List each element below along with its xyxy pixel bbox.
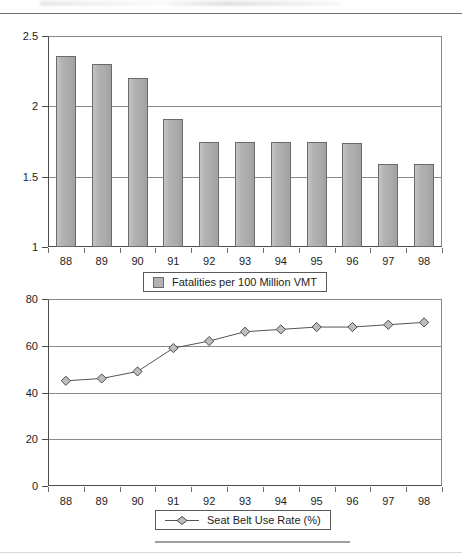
legend-label-fatalities: Fatalities per 100 Million VMT [172, 276, 317, 288]
bar-y-tick-label: 1 [32, 241, 38, 253]
bar-x-tick-mark [406, 248, 407, 253]
line-x-tick-mark [155, 487, 156, 492]
data-point-marker [205, 336, 214, 345]
cropped-header-text [40, 1, 340, 6]
bar-item [56, 56, 76, 247]
line-x-tick-label: 88 [60, 495, 72, 507]
bar-y-tick-label: 2.5 [23, 30, 38, 42]
bar-x-tick-mark [442, 248, 443, 253]
bar-y-tick-mark [42, 106, 48, 107]
line-x-tick-label: 90 [131, 495, 143, 507]
bar-item [378, 164, 398, 247]
bar-x-tick-mark [191, 248, 192, 253]
data-point-marker [61, 376, 70, 385]
bar-item [342, 143, 362, 247]
bar-y-tick-mark [42, 177, 48, 178]
legend-label-seatbelt: Seat Belt Use Rate (%) [207, 514, 321, 526]
data-point-marker [276, 325, 285, 334]
data-point-marker [240, 327, 249, 336]
line-x-tick-mark [335, 487, 336, 492]
line-x-tick-label: 89 [96, 495, 108, 507]
data-point-marker [312, 322, 321, 331]
bar-x-tick-mark [299, 248, 300, 253]
bar-x-tick-mark [227, 248, 228, 253]
bar-x-tick-mark [155, 248, 156, 253]
line-x-tick-mark [227, 487, 228, 492]
line-x-tick-mark [370, 487, 371, 492]
bar-y-tick-mark [42, 36, 48, 37]
bar-x-tick-label: 97 [382, 255, 394, 267]
bar-x-tick-label: 91 [167, 255, 179, 267]
bar-x-tick-mark [120, 248, 121, 253]
bar-x-tick-mark [84, 248, 85, 253]
bar-item [235, 142, 255, 248]
line-x-tick-mark [48, 487, 49, 492]
line-x-tick-mark [120, 487, 121, 492]
bar-item [414, 164, 434, 247]
line-x-tick-label: 98 [418, 495, 430, 507]
bar-item [92, 64, 112, 247]
legend-diamond-icon [177, 516, 187, 524]
bar-x-tick-label: 92 [203, 255, 215, 267]
line-x-tick-mark [406, 487, 407, 492]
line-x-tick-label: 93 [239, 495, 251, 507]
bar-x-tick-mark [263, 248, 264, 253]
bar-y-tick-label: 2 [32, 100, 38, 112]
bar-x-tick-label: 98 [418, 255, 430, 267]
line-x-tick-mark [442, 487, 443, 492]
seatbelt-series [0, 288, 462, 548]
bar-y-tick-label: 1.5 [23, 171, 38, 183]
bar-item [199, 142, 219, 248]
seatbelt-line-chart: 020406080 8889909192939495969798 Seat Be… [0, 288, 462, 548]
bar-x-tick-mark [335, 248, 336, 253]
bar-x-tick-label: 89 [96, 255, 108, 267]
bar-x-tick-label: 96 [346, 255, 358, 267]
bar-x-tick-mark [370, 248, 371, 253]
fatalities-bar-chart: 11.522.5 8889909192939495969798 Fataliti… [0, 25, 462, 275]
line-x-tick-mark [263, 487, 264, 492]
legend-line-icon [165, 515, 199, 526]
header-divider-rule [0, 13, 462, 14]
bar-gridline [49, 36, 441, 37]
footer-divider-faint [0, 552, 462, 553]
bar-item [307, 142, 327, 248]
bar-x-tick-mark [48, 248, 49, 253]
line-x-tick-label: 96 [346, 495, 358, 507]
footer-divider-dark [155, 541, 350, 543]
line-x-tick-label: 95 [311, 495, 323, 507]
bar-x-tick-label: 94 [275, 255, 287, 267]
data-point-marker [133, 367, 142, 376]
bar-x-tick-label: 90 [131, 255, 143, 267]
line-x-tick-label: 92 [203, 495, 215, 507]
bar-x-tick-label: 95 [311, 255, 323, 267]
bar-item [128, 78, 148, 247]
line-x-tick-mark [299, 487, 300, 492]
line-x-tick-label: 94 [275, 495, 287, 507]
bar-x-tick-label: 88 [60, 255, 72, 267]
bar-x-tick-label: 93 [239, 255, 251, 267]
bar-item [163, 119, 183, 247]
line-x-tick-label: 91 [167, 495, 179, 507]
figure-page: 11.522.5 8889909192939495969798 Fataliti… [0, 0, 462, 559]
data-point-marker [348, 322, 357, 331]
data-point-marker [384, 320, 393, 329]
line-x-tick-mark [191, 487, 192, 492]
line-x-tick-mark [84, 487, 85, 492]
line-chart-legend: Seat Belt Use Rate (%) [155, 510, 331, 530]
data-point-marker [97, 374, 106, 383]
data-point-marker [169, 343, 178, 352]
bar-item [271, 142, 291, 248]
legend-swatch-icon [153, 277, 164, 288]
line-x-tick-label: 97 [382, 495, 394, 507]
data-point-marker [419, 318, 428, 327]
